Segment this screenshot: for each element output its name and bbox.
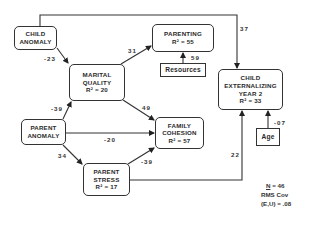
node-label: FAMILY [168,122,191,130]
rms-label: RMS Cov [261,190,291,199]
model-fit-stats: N = 46 RMS Cov (E,U) = .08 [266,181,291,208]
node-family-cohesion: FAMILY COHESION R² = 57 [155,117,204,149]
node-age: Age [256,128,280,146]
node-label: PARENTING [164,30,202,38]
coef-child-anomaly-marital: -23 [44,55,56,62]
node-label: COHESION [162,129,197,137]
coef-stress-externalizing: 22 [231,151,240,158]
coef-child-anomaly-externalizing: 37 [240,25,249,32]
coef-parent-anomaly-stress: 34 [58,152,67,159]
r-squared: R² = 17 [96,183,118,191]
r-squared: R² = 57 [169,137,191,145]
edge-parent-anomaly-to-marital-quality [63,102,71,119]
coef-marital-parenting: 31 [128,47,137,54]
r-squared: R² = 55 [172,38,194,46]
coef-age-externalizing: -07 [274,119,286,126]
eu-label: (E,U) [261,200,275,207]
node-label: CHILD [26,30,46,38]
coef-parent-anomaly-cohesion: -20 [104,136,116,143]
node-label: PARENT [93,168,119,176]
coef-parent-anomaly-marital: -39 [51,105,63,112]
edge-child-anomaly-to-marital-quality [57,48,68,63]
node-parent-anomaly: PARENT ANOMALY [21,119,66,145]
coef-stress-cohesion: -39 [141,158,153,165]
node-child-externalizing: CHILD EXTERNALIZING YEAR 2 R² = 33 [218,69,283,110]
coef-resources-parenting: 59 [191,54,200,61]
node-label: Resources [165,66,201,74]
n-label: N [266,182,270,189]
eu-value: = .08 [277,200,291,207]
node-resources: Resources [160,63,206,77]
r-squared: R² = 33 [240,97,262,105]
node-parent-stress: PARENT STRESS R² = 17 [83,163,130,196]
node-label: YEAR 2 [239,90,263,98]
node-marital-quality: MARITAL QUALITY R² = 20 [69,64,125,101]
node-label: QUALITY [83,79,112,87]
coef-marital-cohesion: 49 [142,104,151,111]
node-label: ANOMALY [19,38,51,46]
node-label: MARITAL [83,71,112,79]
eu-row: (E,U) = .08 [261,199,291,208]
node-parenting: PARENTING R² = 55 [152,24,214,52]
n-value: = 46 [272,182,284,189]
node-child-anomaly: CHILD ANOMALY [14,26,57,50]
node-label: CHILD [241,74,261,82]
node-label: Age [261,133,274,141]
node-label: ANOMALY [27,132,59,140]
node-label: STRESS [94,176,120,184]
r-squared: R² = 20 [86,86,108,94]
node-label: EXTERNALIZING [224,82,276,90]
node-label: PARENT [30,124,56,132]
sample-size: N = 46 [266,181,291,190]
